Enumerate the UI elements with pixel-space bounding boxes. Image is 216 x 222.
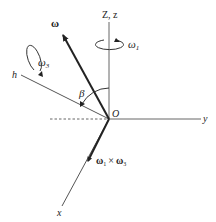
h-axis bbox=[21, 75, 109, 119]
vertical-axis-label: Z, z bbox=[102, 9, 118, 20]
diagram-svg: Z, z ω ω1 ω3 h β O y ω1×ω3 x bbox=[0, 0, 216, 222]
y-axis-label: y bbox=[202, 113, 208, 124]
omega1-cross-omega3-label: ω1×ω3 bbox=[96, 155, 126, 167]
beta-label: β bbox=[78, 87, 85, 99]
h-axis-label: h bbox=[12, 69, 17, 80]
origin-label: O bbox=[112, 108, 119, 119]
omega3-label: ω3 bbox=[38, 56, 50, 70]
x-axis-label: x bbox=[56, 207, 62, 218]
omega1-label: ω1 bbox=[128, 38, 139, 52]
rotation-diagram: Z, z ω ω1 ω3 h β O y ω1×ω3 x bbox=[0, 0, 216, 222]
omega-label: ω bbox=[51, 17, 59, 29]
omega-vector bbox=[63, 35, 109, 119]
